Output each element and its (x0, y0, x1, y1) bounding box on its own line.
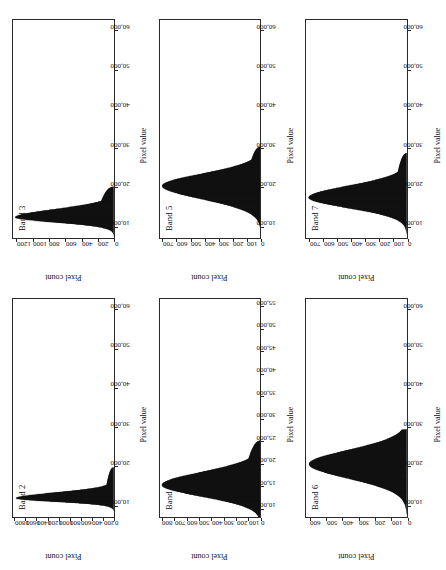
panel-title: Band 4 (164, 484, 174, 510)
y-axis-title: Pixel count (305, 551, 408, 562)
x-tick-label: 30,000 (110, 420, 129, 428)
x-tick-label: 30,000 (403, 141, 422, 149)
y-tick-label: 0 (408, 519, 412, 527)
histogram-figure: Band 2020040060080010001200140016001800P… (0, 0, 446, 570)
x-tick-label: 20,000 (403, 459, 422, 467)
y-tick-label: 200 (375, 519, 386, 527)
x-tick-label: 40,000 (257, 101, 276, 109)
x-tick-label: 30,000 (110, 141, 129, 149)
y-tick-label: 800 (49, 240, 60, 248)
x-tick-label: 60,000 (257, 23, 276, 31)
x-axis-title: Pixel value (431, 6, 443, 285)
panel-title: Band 2 (17, 484, 27, 510)
y-tick-label: 1200 (17, 240, 31, 248)
y-tick-label: 600 (187, 519, 198, 527)
y-tick-label: 600 (177, 240, 188, 248)
y-tick-label: 0 (115, 240, 119, 248)
x-tick-label: 50,000 (403, 341, 422, 349)
y-tick-label: 1800 (15, 519, 29, 527)
y-tick-label: 500 (327, 519, 338, 527)
plot-area (12, 19, 115, 239)
x-tick-label: 60,000 (110, 23, 129, 31)
x-axis-title: Pixel value (284, 285, 296, 564)
y-tick-label: 400 (343, 519, 354, 527)
panel-title: Band 7 (310, 205, 320, 231)
x-tick-label: 10,000 (403, 498, 422, 506)
y-tick-label: 400 (82, 240, 93, 248)
x-tick-mark (408, 388, 411, 389)
figure-rotation-wrapper: Band 2020040060080010001200140016001800P… (0, 0, 446, 570)
plot-area (305, 19, 408, 239)
y-tick-label: 100 (394, 240, 405, 248)
panel-title: Band 6 (310, 484, 320, 510)
y-tick-label: 300 (219, 240, 230, 248)
x-axis-title-text: Pixel value (139, 407, 148, 443)
x-tick-label: 40,000 (110, 380, 129, 388)
y-axis-title: Pixel count (12, 272, 115, 283)
x-tick-label: 30,000 (257, 411, 276, 419)
x-tick-label: 20,000 (257, 180, 276, 188)
x-tick-mark (115, 388, 118, 389)
x-tick-label: 50,000 (257, 62, 276, 70)
y-tick-label: 600 (310, 519, 321, 527)
y-tick-label: 400 (205, 240, 216, 248)
histogram-bars (160, 299, 261, 517)
x-tick-label: 55,000 (257, 299, 276, 307)
x-tick-label: 15,000 (257, 479, 276, 487)
x-tick-label: 10,000 (257, 501, 276, 509)
y-axis-title: Pixel count (159, 551, 262, 562)
y-axis-title-text: Pixel count (339, 552, 375, 561)
x-tick-label: 50,000 (403, 62, 422, 70)
x-tick-label: 35,000 (257, 389, 276, 397)
plot-area (305, 298, 408, 518)
x-tick-label: 60,000 (403, 23, 422, 31)
histogram-bars (13, 299, 114, 517)
y-axis-title-text: Pixel count (192, 273, 228, 282)
x-tick-label: 20,000 (257, 456, 276, 464)
y-tick-label: 800 (162, 519, 173, 527)
y-tick-label: 200 (380, 240, 391, 248)
histogram-bars (160, 20, 261, 238)
y-tick-label: 200 (98, 240, 109, 248)
plot-area (12, 298, 115, 518)
x-tick-label: 10,000 (110, 498, 129, 506)
histogram-panel-band-6: Band 60100200300400500600Pixel count10,0… (297, 285, 444, 564)
histogram-panel-band-4: Band 40100200300400500600700800Pixel cou… (151, 285, 298, 564)
histogram-panel-band-3: Band 3020040060080010001200Pixel count10… (4, 6, 151, 285)
x-axis-title-text: Pixel value (286, 128, 295, 164)
y-tick-label: 300 (366, 240, 377, 248)
y-axis-title: Pixel count (305, 272, 408, 283)
x-tick-label: 25,000 (257, 434, 276, 442)
y-tick-label: 500 (338, 240, 349, 248)
histogram-bars (306, 20, 407, 238)
plot-area (159, 298, 262, 518)
panel-title: Band 5 (164, 205, 174, 231)
y-tick-label: 200 (237, 519, 248, 527)
y-tick-label: 500 (199, 519, 210, 527)
y-tick-label: 300 (224, 519, 235, 527)
x-tick-label: 20,000 (110, 180, 129, 188)
x-axis-title: Pixel value (138, 285, 150, 564)
y-tick-label: 500 (191, 240, 202, 248)
x-tick-label: 40,000 (403, 101, 422, 109)
x-tick-label: 10,000 (257, 219, 276, 227)
y-tick-label: 200 (233, 240, 244, 248)
y-axis-title-text: Pixel count (339, 273, 375, 282)
x-tick-label: 50,000 (110, 62, 129, 70)
x-tick-label: 40,000 (257, 366, 276, 374)
x-tick-label: 50,000 (110, 341, 129, 349)
x-tick-mark (261, 109, 264, 110)
histogram-bars (306, 299, 407, 517)
y-axis-title-text: Pixel count (45, 552, 81, 561)
panel-title: Band 3 (17, 205, 27, 231)
x-tick-mark (115, 109, 118, 110)
x-tick-label: 50,000 (257, 321, 276, 329)
histogram-bars (13, 20, 114, 238)
y-tick-label: 700 (310, 240, 321, 248)
x-tick-mark (408, 109, 411, 110)
x-axis-title-text: Pixel value (286, 407, 295, 443)
y-tick-label: 0 (261, 519, 265, 527)
y-tick-label: 400 (212, 519, 223, 527)
x-tick-label: 45,000 (257, 344, 276, 352)
x-tick-label: 20,000 (403, 180, 422, 188)
